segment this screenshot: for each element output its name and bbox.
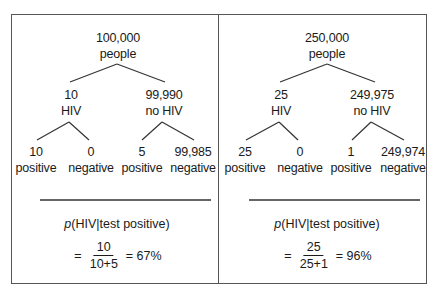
leaf-label: negative bbox=[170, 160, 216, 176]
root-node: 250,000 people bbox=[305, 30, 349, 62]
branch-no-hiv: 99,990 no HIV bbox=[145, 87, 182, 119]
leaf-count: 5 bbox=[122, 144, 163, 160]
branch-count: 25 bbox=[271, 87, 291, 103]
numerator: 10 bbox=[94, 240, 114, 256]
root-count: 100,000 bbox=[96, 30, 140, 46]
equals-sign: = bbox=[74, 249, 81, 263]
leaf-count: 249,974 bbox=[380, 144, 426, 160]
branch-label: HIV bbox=[271, 103, 291, 119]
fraction: 10 10+5 bbox=[87, 240, 121, 271]
probability-expr: (HIV|test positive) bbox=[71, 217, 169, 231]
probability-label: p(HIV|test positive) bbox=[64, 217, 169, 231]
leaf-label: positive bbox=[16, 160, 57, 176]
numerator: 25 bbox=[304, 240, 324, 256]
branch-count: 249,975 bbox=[350, 87, 394, 103]
root-count: 250,000 bbox=[305, 30, 349, 46]
leaf-label: negative bbox=[277, 160, 323, 176]
probability-equation: = 10 10+5 = 67% bbox=[74, 240, 161, 271]
probability-expr: (HIV|test positive) bbox=[281, 217, 379, 231]
leaf-label: positive bbox=[225, 160, 266, 176]
root-node: 100,000 people bbox=[96, 30, 140, 62]
p-symbol: p bbox=[274, 217, 281, 231]
leaf-node: 5 positive bbox=[122, 144, 163, 176]
leaf-count: 99,985 bbox=[170, 144, 216, 160]
leaf-node: 25 positive bbox=[225, 144, 266, 176]
probability-label: p(HIV|test positive) bbox=[274, 217, 379, 231]
branch-hiv: 10 HIV bbox=[61, 87, 81, 119]
branch-no-hiv: 249,975 no HIV bbox=[350, 87, 394, 119]
leaf-count: 1 bbox=[331, 144, 372, 160]
fraction: 25 25+1 bbox=[297, 240, 331, 271]
branch-count: 99,990 bbox=[145, 87, 182, 103]
leaf-node: 1 positive bbox=[331, 144, 372, 176]
leaf-label: negative bbox=[380, 160, 426, 176]
branch-label: no HIV bbox=[350, 103, 394, 119]
probability-equation: = 25 25+1 = 96% bbox=[284, 240, 371, 271]
leaf-count: 0 bbox=[277, 144, 323, 160]
leaf-node: 10 positive bbox=[16, 144, 57, 176]
denominator: 25+1 bbox=[297, 256, 331, 271]
leaf-node: 99,985 negative bbox=[170, 144, 216, 176]
leaf-label: positive bbox=[331, 160, 372, 176]
denominator: 10+5 bbox=[87, 256, 121, 271]
panel-divider bbox=[218, 14, 219, 284]
root-label: people bbox=[305, 46, 349, 62]
branch-label: HIV bbox=[61, 103, 81, 119]
leaf-node: 249,974 negative bbox=[380, 144, 426, 176]
leaf-node: 0 negative bbox=[277, 144, 323, 176]
leaf-label: positive bbox=[122, 160, 163, 176]
branch-count: 10 bbox=[61, 87, 81, 103]
equals-sign: = bbox=[284, 249, 291, 263]
branch-label: no HIV bbox=[145, 103, 182, 119]
leaf-label: negative bbox=[68, 160, 114, 176]
leaf-node: 0 negative bbox=[68, 144, 114, 176]
leaf-count: 10 bbox=[16, 144, 57, 160]
result: = 67% bbox=[126, 249, 162, 263]
branch-hiv: 25 HIV bbox=[271, 87, 291, 119]
leaf-count: 0 bbox=[68, 144, 114, 160]
p-symbol: p bbox=[64, 217, 71, 231]
leaf-count: 25 bbox=[225, 144, 266, 160]
root-label: people bbox=[96, 46, 140, 62]
result: = 96% bbox=[336, 249, 372, 263]
